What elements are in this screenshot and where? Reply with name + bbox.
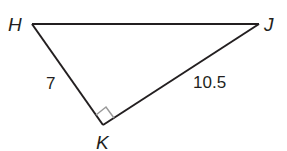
right-angle-mark — [96, 107, 114, 118]
triangle-diagram: H J K 7 10.5 — [0, 0, 287, 151]
side-length-HK: 7 — [46, 74, 55, 93]
vertex-label-H: H — [8, 14, 22, 35]
side-KJ — [103, 24, 259, 125]
side-length-KJ: 10.5 — [193, 73, 226, 92]
side-HK — [32, 24, 103, 125]
vertex-label-K: K — [96, 132, 110, 151]
vertex-label-J: J — [263, 14, 274, 35]
